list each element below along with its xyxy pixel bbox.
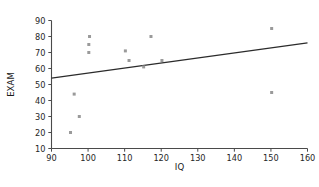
data-point (160, 59, 163, 62)
x-tick-label: 90 (46, 153, 56, 163)
y-tick-label: 80 (35, 32, 45, 42)
y-tick-label: 20 (35, 128, 45, 138)
x-tick-label: 110 (117, 153, 133, 163)
y-tick-label: 90 (35, 16, 45, 26)
y-tick-label: 30 (35, 112, 45, 122)
data-point (270, 91, 273, 94)
y-tick-label: 70 (35, 48, 45, 58)
y-axis-ticks: 102030405060708090 (35, 16, 51, 154)
x-tick-label: 100 (80, 153, 96, 163)
data-point (142, 65, 145, 68)
data-point (88, 35, 91, 38)
data-point (124, 49, 127, 52)
x-tick-label: 160 (300, 153, 316, 163)
y-axis-label: EXAM (6, 72, 16, 97)
data-point (69, 131, 72, 134)
data-point (128, 59, 131, 62)
x-tick-label: 130 (190, 153, 206, 163)
x-tick-label: 140 (227, 153, 243, 163)
y-tick-label: 10 (35, 144, 45, 154)
data-point (73, 93, 76, 96)
y-tick-label: 60 (35, 64, 45, 74)
regression-trendline (52, 43, 308, 78)
plot-area: 102030405060708090 901001101201301401501… (0, 0, 319, 187)
scatter-chart: 102030405060708090 901001101201301401501… (0, 0, 319, 187)
data-point (87, 51, 90, 54)
data-points (69, 27, 273, 134)
data-point (78, 115, 81, 118)
y-tick-label: 40 (35, 96, 45, 106)
data-point (149, 35, 152, 38)
x-tick-label: 120 (153, 153, 169, 163)
x-axis-label: IQ (175, 162, 185, 172)
data-point (270, 27, 273, 30)
x-tick-label: 150 (263, 153, 279, 163)
data-point (87, 43, 90, 46)
y-tick-label: 50 (35, 80, 45, 90)
